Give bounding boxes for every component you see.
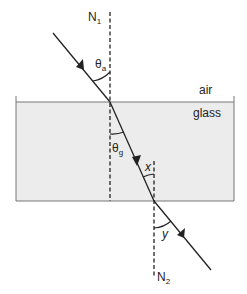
label-air: air bbox=[199, 84, 212, 96]
refraction-diagram bbox=[0, 0, 247, 294]
angle-arc-theta-a bbox=[93, 72, 110, 81]
label-theta-g: θg bbox=[112, 142, 123, 157]
label-glass: glass bbox=[193, 107, 221, 119]
label-theta-a: θa bbox=[95, 58, 106, 73]
label-n2: N2 bbox=[157, 271, 170, 286]
label-y: y bbox=[162, 228, 168, 240]
label-x: x bbox=[145, 161, 151, 173]
label-n1: N1 bbox=[88, 11, 101, 26]
arrow-incident-icon bbox=[76, 59, 84, 70]
